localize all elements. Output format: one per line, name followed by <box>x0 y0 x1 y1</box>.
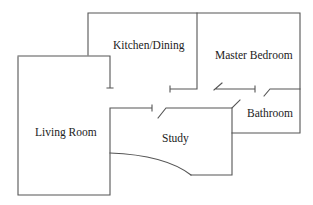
living-room-walls <box>18 56 113 88</box>
study-curve <box>110 153 191 175</box>
label-study: Study <box>162 132 189 145</box>
label-master-bedroom: Master Bedroom <box>215 49 293 61</box>
label-living-room: Living Room <box>35 126 97 139</box>
label-bathroom: Bathroom <box>247 107 293 119</box>
master-door <box>214 83 255 92</box>
floor-plan: Kitchen/Dining Master Bedroom Bathroom L… <box>0 0 313 205</box>
study-door <box>158 100 240 118</box>
room-labels: Kitchen/Dining Master Bedroom Bathroom L… <box>35 39 293 145</box>
kitchen-master-partition <box>170 13 197 92</box>
bathroom-door <box>264 89 300 96</box>
study-right-wall <box>191 108 232 175</box>
label-kitchen: Kitchen/Dining <box>113 39 185 52</box>
